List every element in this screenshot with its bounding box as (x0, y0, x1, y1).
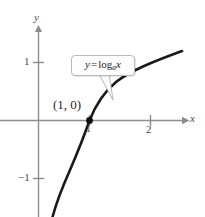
equation-callout-box: y=logax (71, 55, 135, 76)
x-axis-arrowhead (182, 117, 190, 124)
y-tick-label-1: 1 (24, 56, 30, 67)
x-tick-label-2: 2 (146, 124, 152, 135)
x-tick-label-1: 1 (86, 124, 91, 134)
y-axis-label: y (34, 12, 39, 23)
x-axis (0, 117, 190, 124)
logarithm-graph-figure: y x 1 −1 1 2 (1, 0) y=logax (0, 0, 205, 217)
x-axis-label: x (190, 113, 195, 124)
equation-log-function: log (98, 58, 112, 70)
y-tick-label-neg1: −1 (18, 172, 30, 183)
plot-canvas (0, 0, 205, 217)
equation-equals-sign: = (90, 58, 98, 70)
equation-callout-text: y=logax (85, 59, 121, 72)
equation-argument-x: x (116, 58, 121, 70)
y-axis-arrowhead (35, 25, 42, 32)
point-coordinate-label: (1, 0) (53, 98, 81, 111)
